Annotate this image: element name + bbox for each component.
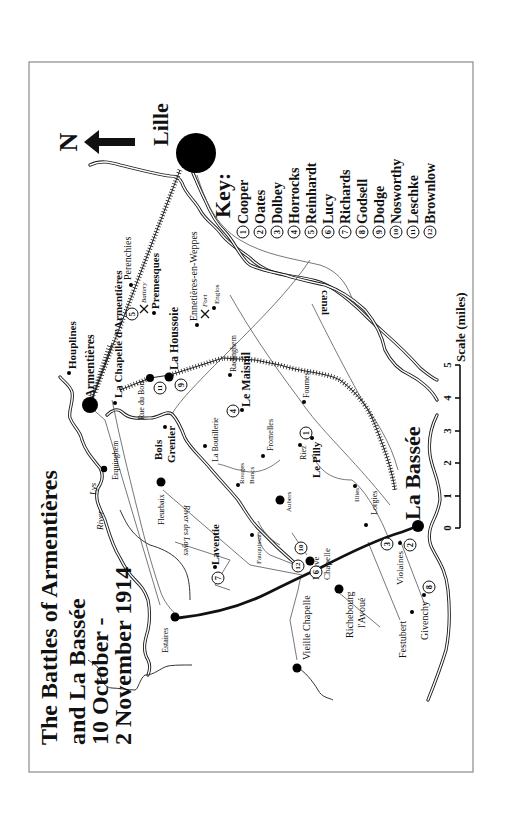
label-river: River xyxy=(95,510,105,531)
svg-text:10: 10 xyxy=(392,228,400,236)
key-item: 2 Oates xyxy=(253,189,268,238)
svg-text:Horrocks: Horrocks xyxy=(287,167,302,224)
svg-text:Cooper: Cooper xyxy=(236,180,251,224)
label-grenier: Grenier xyxy=(165,426,177,463)
svg-text:5: 5 xyxy=(441,362,453,368)
marker-4: 4 xyxy=(227,405,239,417)
label-fromelles: Fromelles xyxy=(266,419,275,451)
svg-text:8: 8 xyxy=(424,585,434,589)
svg-text:12: 12 xyxy=(294,562,302,570)
label-lille: Lille xyxy=(148,103,173,146)
label-bancs: Bancs xyxy=(248,467,256,484)
label-armentieres: Armentières xyxy=(83,334,97,398)
label-la-boutillerie: La Boutillerie xyxy=(211,417,220,462)
svg-text:Dolbey: Dolbey xyxy=(270,182,285,224)
scale-label: Scale (miles) xyxy=(453,292,468,362)
svg-text:9: 9 xyxy=(176,383,186,387)
svg-text:4: 4 xyxy=(441,395,453,401)
svg-text:Oates: Oates xyxy=(253,189,268,224)
marker-11: 11 xyxy=(154,382,166,394)
north-label: N xyxy=(54,132,83,151)
svg-text:2: 2 xyxy=(255,230,265,234)
label-premesques: Premesques xyxy=(149,252,161,309)
label-chapelle: Chapelle xyxy=(322,548,332,580)
marker-3: 3 xyxy=(381,538,393,550)
svg-text:3: 3 xyxy=(272,230,282,234)
marker-8: 8 xyxy=(423,581,435,593)
svg-text:0: 0 xyxy=(441,525,453,531)
svg-text:Nosworthy: Nosworthy xyxy=(389,159,404,224)
marker-7: 7 xyxy=(212,572,224,584)
label-bois: Bois xyxy=(152,439,164,460)
marker-10: 10 xyxy=(295,542,307,554)
la-bassee-marker xyxy=(412,520,424,532)
svg-text:2 November 1914: 2 November 1914 xyxy=(110,567,136,745)
svg-text:6: 6 xyxy=(323,230,333,234)
label-festubert: Festubert xyxy=(397,621,408,658)
label-lorgies: Lorgies xyxy=(370,491,379,515)
key-heading: Key: xyxy=(210,173,235,218)
svg-text:5: 5 xyxy=(306,230,316,234)
label-fleurbaix: Fleurbaix xyxy=(157,494,166,525)
svg-text:2: 2 xyxy=(405,543,415,547)
key-item: 6 Lucy xyxy=(321,194,336,238)
label-le-pilly: Le Pilly xyxy=(310,441,322,478)
svg-text:Brownlow: Brownlow xyxy=(423,162,438,224)
svg-text:Leschke: Leschke xyxy=(406,175,421,224)
label-erquinghem: Erquinghem xyxy=(111,440,120,480)
label-illies: Illies xyxy=(353,488,361,502)
svg-text:12: 12 xyxy=(426,228,434,236)
label-houplines: Houplines xyxy=(66,321,78,369)
key-item: 1 Cooper xyxy=(236,180,251,238)
svg-text:11: 11 xyxy=(156,384,164,391)
svg-text:10: 10 xyxy=(297,544,305,552)
marker-6: 6 xyxy=(310,566,322,578)
svg-text:5: 5 xyxy=(127,312,137,316)
label-fauquissart: Fauquissart xyxy=(255,532,263,564)
svg-text:Lucy: Lucy xyxy=(321,194,336,224)
label-richebourg: Richebourg xyxy=(344,592,355,638)
svg-text:3: 3 xyxy=(382,542,392,546)
svg-text:1: 1 xyxy=(441,493,453,499)
svg-text:Godsell: Godsell xyxy=(355,179,370,224)
label-vieille-chapelle: Vieille Chapelle xyxy=(301,595,312,660)
lille-marker xyxy=(176,133,216,173)
svg-text:9: 9 xyxy=(374,230,384,234)
label-englos: Englos xyxy=(213,284,221,304)
key-item: 8 Godsell xyxy=(355,179,370,238)
label-la-bassee: La Bassée xyxy=(400,426,425,520)
label-rouges: Rouges xyxy=(238,463,246,484)
label-battery: Battery xyxy=(140,282,148,303)
svg-text:1: 1 xyxy=(238,230,248,234)
marker-1: 1 xyxy=(300,427,312,439)
label-la-houssoie: La Houssoie xyxy=(167,306,181,370)
marker-9: 9 xyxy=(175,379,187,391)
label-givenchy: Givenchy xyxy=(419,601,430,640)
svg-text:Dodge: Dodge xyxy=(372,186,387,224)
key-item: 3 Dolbey xyxy=(270,182,285,238)
marker-2: 2 xyxy=(404,539,416,551)
label-perenchies: Perenchies xyxy=(122,237,133,280)
marker-12: 12 xyxy=(292,560,304,572)
key-item: 9 Dodge xyxy=(372,186,387,238)
label-river-des-layes: River des Layes xyxy=(182,504,191,556)
svg-text:6: 6 xyxy=(311,570,321,574)
armentieres-marker xyxy=(82,397,98,413)
label-le-maisnil: Le Maisnil xyxy=(239,351,253,407)
label-estaires: Estaires xyxy=(161,628,170,653)
label-radinghem: Radinghem xyxy=(229,334,238,372)
label-rue-du-bois: Rue du Bois xyxy=(137,380,146,420)
label-aubers: Aubers xyxy=(285,492,293,512)
svg-text:3: 3 xyxy=(441,428,453,434)
label-fournes: Fournes xyxy=(302,372,311,398)
label-lavoue: l'Avoué xyxy=(356,597,367,628)
label-ennetieres: Ennetières-en-Weppes xyxy=(188,231,199,321)
svg-text:8: 8 xyxy=(357,230,367,234)
svg-text:1: 1 xyxy=(301,431,311,435)
label-fort: Fort xyxy=(201,294,209,309)
svg-text:Richards: Richards xyxy=(338,169,353,224)
svg-text:The Battles of Armentières: The Battles of Armentières xyxy=(36,470,62,745)
label-riez: Riez xyxy=(299,445,308,460)
label-laventie: Laventie xyxy=(209,524,221,565)
svg-text:11: 11 xyxy=(409,228,417,235)
